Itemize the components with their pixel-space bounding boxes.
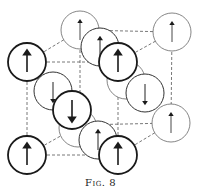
atom-right-face-center [126, 74, 164, 112]
atom-back-top-right [153, 13, 191, 51]
crystal-spin-diagram [0, 0, 201, 196]
atom-front-bottom-right [99, 136, 137, 174]
figure-caption: Fig. 8 [0, 177, 201, 188]
atom-body-center [53, 91, 91, 129]
atom-front-top-right [99, 43, 137, 81]
atom-front-top-left [8, 43, 46, 81]
atom-front-bottom-left [8, 136, 46, 174]
atom-back-bottom-right [152, 104, 190, 142]
